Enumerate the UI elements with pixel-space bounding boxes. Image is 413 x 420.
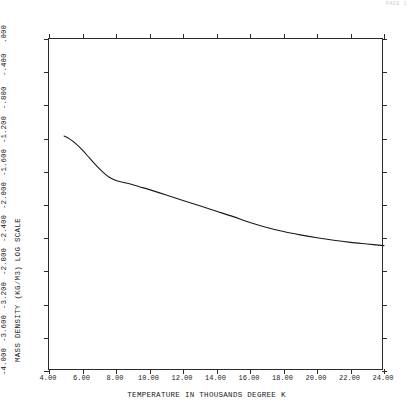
- y-axis-tick: [382, 72, 387, 73]
- y-tick-label: -1.600: [0, 171, 44, 172]
- chart-canvas: MASS DENSITY (KG/M3) LOG SCALE .000-.400…: [0, 0, 413, 420]
- y-tick-label-text: -2.000: [0, 182, 8, 209]
- y-axis-tick: [44, 305, 49, 306]
- x-tick-label-text: 24.00: [372, 374, 393, 382]
- y-axis-tick: [44, 238, 49, 239]
- y-tick-label-text: -2.400: [0, 215, 8, 242]
- x-axis-tick: [250, 34, 251, 39]
- y-tick-label-text: -.400: [0, 54, 8, 77]
- y-tick-label: -.800: [0, 104, 44, 105]
- y-axis-tick: [382, 172, 387, 173]
- x-tick-label-text: 12.00: [171, 374, 192, 382]
- y-axis-tick: [44, 139, 49, 140]
- y-tick-label: -2.000: [0, 204, 44, 205]
- x-tick-label-text: 4.00: [40, 374, 57, 382]
- y-axis-tick: [44, 338, 49, 339]
- x-axis-tick: [384, 34, 385, 39]
- x-axis-tick: [317, 34, 318, 39]
- y-axis-title: MASS DENSITY (KG/M3) LOG SCALE: [22, 0, 34, 370]
- x-tick-label: 24.00: [383, 374, 404, 386]
- y-tick-label: -3.600: [0, 337, 44, 338]
- x-tick-label: 4.00: [48, 374, 65, 386]
- y-axis-tick: [382, 139, 387, 140]
- x-axis-tick: [150, 34, 151, 39]
- x-tick-label: 18.00: [283, 374, 304, 386]
- data-curve-svg: [49, 39, 384, 371]
- y-axis-tick: [382, 238, 387, 239]
- y-tick-label: -3.200: [0, 304, 44, 305]
- y-axis-tick: [44, 271, 49, 272]
- x-axis-tick: [217, 34, 218, 39]
- x-tick-label: 16.00: [249, 374, 270, 386]
- y-axis-tick: [44, 205, 49, 206]
- series-line-mass-density: [64, 136, 384, 246]
- y-axis-tick: [44, 172, 49, 173]
- y-tick-label-text: -4.000: [0, 348, 8, 375]
- y-tick-label: -4.000: [0, 370, 44, 371]
- y-tick-label-text: -1.600: [0, 149, 8, 176]
- y-axis-tick: [382, 338, 387, 339]
- y-axis-tick: [382, 305, 387, 306]
- x-axis-tick: [49, 34, 50, 39]
- y-tick-label: .000: [0, 38, 44, 39]
- y-tick-label-text: -2.800: [0, 248, 8, 275]
- plot-frame: [48, 38, 383, 370]
- y-axis-tick: [382, 271, 387, 272]
- x-tick-label-text: 18.00: [272, 374, 293, 382]
- y-tick-label-text: -3.600: [0, 315, 8, 342]
- x-tick-label-text: 10.00: [138, 374, 159, 382]
- y-axis-tick: [382, 105, 387, 106]
- x-axis-tick: [351, 34, 352, 39]
- y-axis-title-text: MASS DENSITY (KG/M3) LOG SCALE: [14, 218, 22, 362]
- y-tick-label-text: .000: [0, 25, 8, 43]
- x-tick-label: 10.00: [149, 374, 170, 386]
- x-axis-title: TEMPERATURE IN THOUSANDS DEGREE K: [0, 391, 413, 399]
- x-tick-label-text: 6.00: [73, 374, 90, 382]
- x-tick-label: 20.00: [316, 374, 337, 386]
- x-axis-tick: [284, 34, 285, 39]
- y-axis-tick: [382, 39, 387, 40]
- y-tick-label-text: -3.200: [0, 282, 8, 309]
- x-tick-label: 8.00: [115, 374, 132, 386]
- x-tick-label: 12.00: [182, 374, 203, 386]
- y-axis-tick: [44, 72, 49, 73]
- y-axis-tick: [382, 205, 387, 206]
- x-tick-label-text: 14.00: [205, 374, 226, 382]
- y-tick-label-text: -.800: [0, 87, 8, 110]
- x-tick-label: 6.00: [82, 374, 99, 386]
- y-axis-tick: [44, 105, 49, 106]
- x-tick-label: 22.00: [350, 374, 371, 386]
- y-tick-label: -2.400: [0, 237, 44, 238]
- x-tick-label-text: 8.00: [107, 374, 124, 382]
- x-axis-tick: [116, 34, 117, 39]
- y-tick-label: -2.800: [0, 270, 44, 271]
- y-tick-label: -.400: [0, 71, 44, 72]
- x-tick-label-text: 16.00: [238, 374, 259, 382]
- y-tick-label-text: -1.200: [0, 116, 8, 143]
- y-tick-label: -1.200: [0, 138, 44, 139]
- x-tick-label-text: 22.00: [339, 374, 360, 382]
- x-axis-tick: [83, 34, 84, 39]
- x-tick-label-text: 20.00: [305, 374, 326, 382]
- y-axis-tick: [44, 39, 49, 40]
- x-tick-label: 14.00: [216, 374, 237, 386]
- x-axis-tick: [183, 34, 184, 39]
